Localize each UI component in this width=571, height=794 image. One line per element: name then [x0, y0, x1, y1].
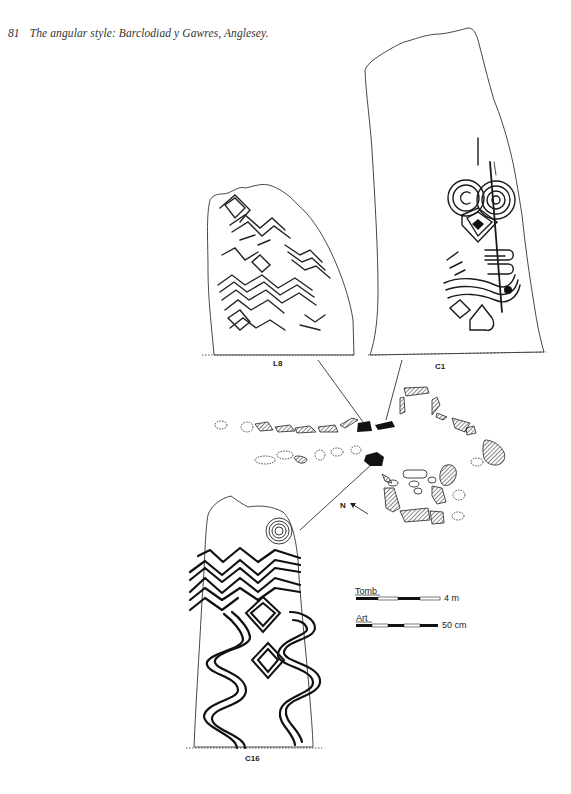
- tomb-plan: [215, 387, 505, 524]
- scale-bar-tomb: Tomb 4 m: [355, 586, 459, 603]
- svg-text:4 m: 4 m: [444, 593, 459, 603]
- stone-c1: C1: [365, 28, 547, 371]
- north-arrow: N: [340, 501, 368, 514]
- svg-text:N: N: [340, 501, 346, 510]
- stone-label-l8: L8: [273, 359, 283, 368]
- figure-illustration: L8: [0, 0, 571, 794]
- scale-bar-art: Art 50 cm: [356, 613, 467, 630]
- svg-text:50 cm: 50 cm: [442, 620, 467, 630]
- stone-label-c1: C1: [435, 362, 446, 371]
- stone-l8: L8: [202, 184, 354, 368]
- svg-text:Tomb: Tomb: [355, 586, 377, 596]
- svg-text:Art: Art: [356, 613, 368, 623]
- stone-c16: C16: [186, 496, 322, 763]
- stone-label-c16: C16: [245, 754, 260, 763]
